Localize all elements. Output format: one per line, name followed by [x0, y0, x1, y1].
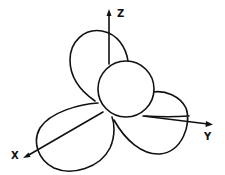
- orbital-diagram: Z X Y: [0, 0, 225, 175]
- y-axis-label: Y: [203, 131, 212, 142]
- y-axis-arrowhead: [206, 121, 214, 127]
- x-axis: X: [11, 112, 103, 161]
- x-axis-arrowhead: [23, 153, 31, 159]
- z-axis-label: Z: [117, 8, 124, 19]
- y-axis: Y: [143, 116, 213, 142]
- x-axis-label: X: [11, 150, 19, 161]
- z-axis: Z: [107, 8, 125, 64]
- central-sphere: [98, 61, 154, 117]
- z-axis-arrowhead: [107, 9, 112, 16]
